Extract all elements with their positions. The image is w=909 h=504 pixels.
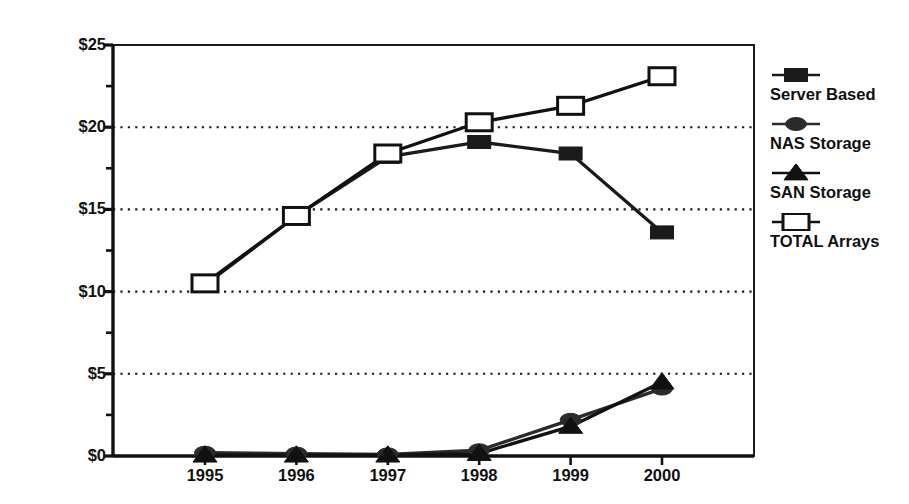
open-square-marker-icon — [466, 114, 492, 131]
legend-item-label: Server Based — [770, 85, 905, 104]
legend-item-label: TOTAL Arrays — [770, 232, 905, 251]
legend-item-nas-storage[interactable]: NAS Storage — [770, 115, 905, 153]
legend-symbol — [770, 66, 905, 84]
filled-triangle-marker-icon — [770, 164, 822, 182]
series-line-san-storage — [205, 382, 662, 455]
data-point-server-based-2000 — [651, 226, 674, 239]
open-square-marker-icon — [783, 214, 809, 231]
legend-item-total-arrays[interactable]: TOTAL Arrays — [770, 213, 905, 251]
legend-item-san-storage[interactable]: SAN Storage — [770, 164, 905, 202]
open-square-marker-icon — [649, 68, 675, 85]
revenue-line-chart-figure: Revenue in $Billiions $0$5$10$15$20$25 1… — [0, 0, 909, 504]
data-point-total-arrays-1998 — [466, 114, 492, 131]
open-square-marker-icon — [783, 214, 809, 231]
series-line-total-arrays — [205, 76, 662, 283]
legend-item-label: SAN Storage — [770, 183, 905, 202]
data-point-server-based-1998 — [468, 135, 491, 148]
data-point-server-based-1999 — [559, 147, 582, 160]
series-line-server-based — [205, 142, 662, 285]
data-point-total-arrays-1995 — [192, 275, 218, 292]
legend-symbol — [770, 164, 905, 182]
legend-item-server-based[interactable]: Server Based — [770, 66, 905, 104]
data-point-total-arrays-1996 — [283, 207, 309, 224]
data-point-san-storage-2000 — [650, 373, 674, 389]
legend-symbol — [770, 115, 905, 133]
data-point-total-arrays-1997 — [375, 145, 401, 162]
series-line-nas-storage — [205, 389, 662, 455]
chart-legend: Server BasedNAS StorageSAN StorageTOTAL … — [770, 66, 905, 262]
legend-item-label: NAS Storage — [770, 134, 905, 153]
open-square-marker-icon — [558, 97, 584, 114]
filled-ellipse-marker-icon — [786, 118, 807, 131]
open-square-marker-icon — [375, 145, 401, 162]
legend-symbol — [770, 213, 905, 231]
filled-square-marker-icon — [785, 69, 808, 82]
filled-square-marker-icon — [468, 135, 491, 148]
filled-ellipse-marker-icon — [770, 115, 822, 133]
data-point-total-arrays-1999 — [558, 97, 584, 114]
filled-square-marker-icon — [770, 66, 822, 84]
filled-triangle-marker-icon — [650, 373, 674, 389]
data-point-total-arrays-2000 — [649, 68, 675, 85]
open-square-marker-icon — [192, 275, 218, 292]
filled-square-marker-icon — [559, 147, 582, 160]
open-square-marker-icon — [770, 213, 822, 231]
open-square-marker-icon — [283, 207, 309, 224]
filled-square-marker-icon — [785, 69, 808, 82]
filled-ellipse-marker-icon — [786, 118, 807, 131]
filled-square-marker-icon — [651, 226, 674, 239]
